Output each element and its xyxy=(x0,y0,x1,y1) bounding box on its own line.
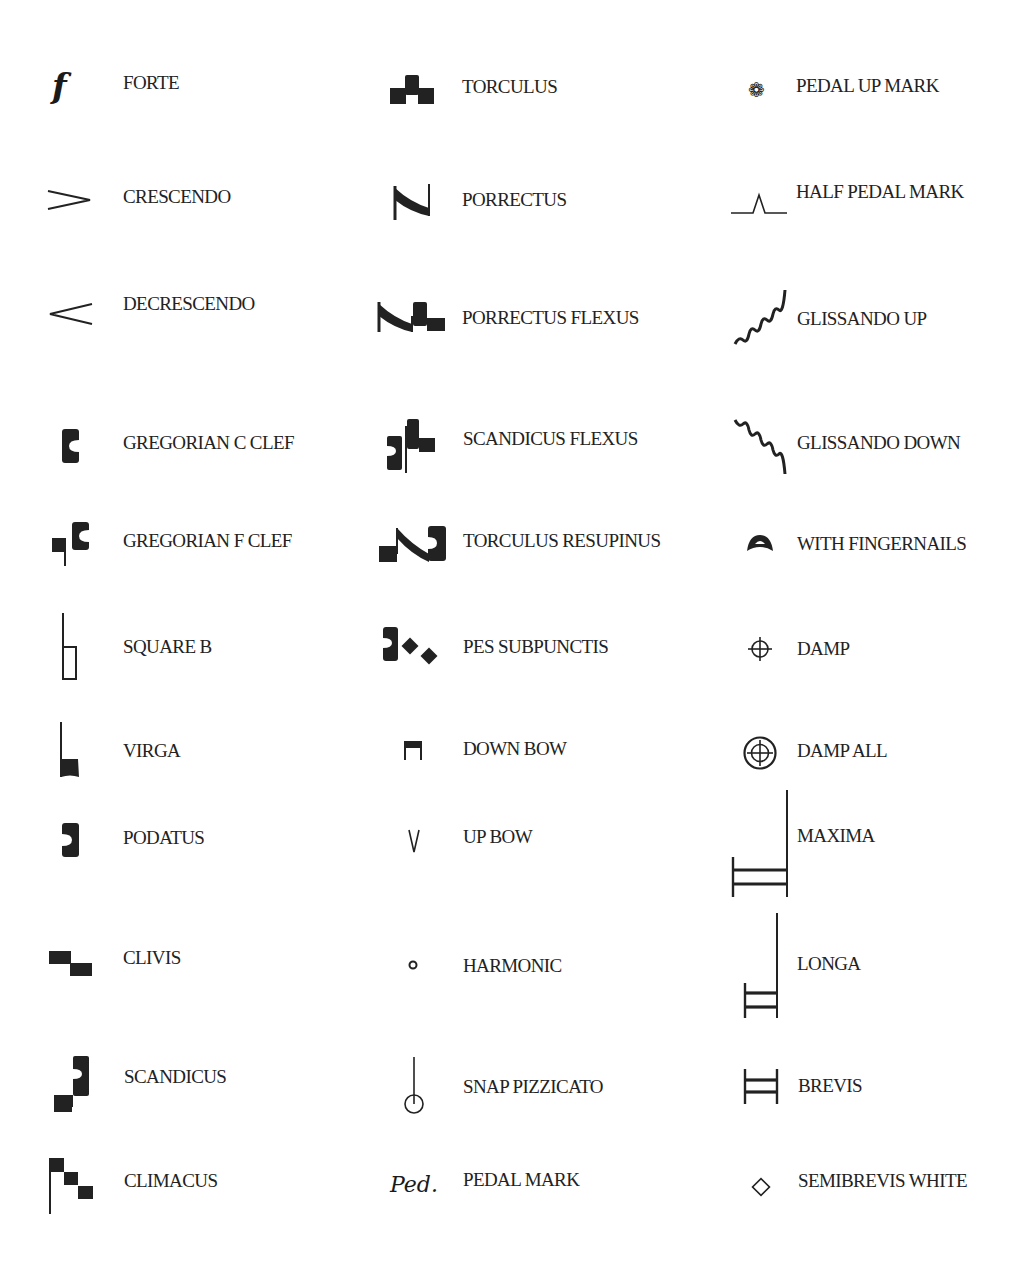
pedal-mark-icon: Ped. xyxy=(390,1172,438,1197)
damp-all-icon xyxy=(742,735,778,771)
glissando-down-icon xyxy=(733,418,787,476)
harmonic-icon xyxy=(407,959,419,971)
crescendo-icon xyxy=(46,189,92,211)
symbol-label: SQUARE B xyxy=(123,636,212,658)
symbol-label: CLIMACUS xyxy=(124,1170,217,1192)
virga-icon xyxy=(58,721,82,779)
symbol-label: UP BOW xyxy=(463,826,532,848)
glissando-up-icon xyxy=(733,288,787,348)
symbol-label: VIRGA xyxy=(123,740,180,762)
clivis-icon xyxy=(48,950,94,978)
semibrevis-white-icon xyxy=(750,1176,772,1198)
symbol-label: PORRECTUS FLEXUS xyxy=(462,307,639,329)
symbol-label: PEDAL UP MARK xyxy=(796,75,939,97)
pes-subpunctis-icon xyxy=(382,626,444,670)
symbol-label: BREVIS xyxy=(798,1075,862,1097)
symbol-label: HALF PEDAL MARK xyxy=(796,181,964,203)
symbol-label: GREGORIAN F CLEF xyxy=(123,530,292,552)
longa-icon xyxy=(742,912,782,1022)
half-pedal-mark-icon xyxy=(730,190,788,216)
gregorian-f-clef-icon xyxy=(50,520,92,568)
gregorian-c-clef-icon xyxy=(61,428,81,464)
symbol-label: SCANDICUS FLEXUS xyxy=(463,428,638,450)
up-bow-icon xyxy=(407,828,421,854)
symbol-label: TORCULUS RESUPINUS xyxy=(463,530,660,552)
symbol-label: HARMONIC xyxy=(463,955,562,977)
snap-pizzicato-icon xyxy=(403,1056,425,1116)
porrectus-icon xyxy=(392,182,432,222)
symbol-label: PEDAL MARK xyxy=(463,1169,579,1191)
scandicus-icon xyxy=(53,1055,93,1115)
climacus-icon xyxy=(47,1156,97,1216)
symbol-label: SNAP PIZZICATO xyxy=(463,1076,603,1098)
down-bow-icon xyxy=(403,740,425,762)
symbol-label: DECRESCENDO xyxy=(123,293,255,315)
with-fingernails-icon xyxy=(745,533,775,553)
maxima-icon xyxy=(730,789,792,899)
pedal-up-mark-icon: ❁ xyxy=(748,80,765,100)
symbol-label: SEMIBREVIS WHITE xyxy=(798,1170,967,1192)
symbol-label: DAMP xyxy=(797,638,850,660)
symbol-label: PES SUBPUNCTIS xyxy=(463,636,608,658)
symbol-label: FORTE xyxy=(123,72,179,94)
symbol-label: GLISSANDO DOWN xyxy=(797,432,960,454)
symbol-label: PODATUS xyxy=(123,827,204,849)
symbol-label: TORCULUS xyxy=(462,76,557,98)
symbol-label: MAXIMA xyxy=(797,825,875,847)
scandicus-flexus-icon xyxy=(386,418,440,476)
symbol-label: LONGA xyxy=(797,953,861,975)
symbol-label: PORRECTUS xyxy=(462,189,566,211)
symbol-label: DAMP ALL xyxy=(797,740,887,762)
brevis-icon xyxy=(742,1068,782,1106)
symbol-label: GLISSANDO UP xyxy=(797,308,927,330)
forte-icon: f xyxy=(52,66,67,106)
porrectus-flexus-icon xyxy=(376,298,448,334)
torculus-icon xyxy=(388,74,436,106)
decrescendo-icon xyxy=(48,302,94,326)
symbol-label: CLIVIS xyxy=(123,947,181,969)
symbol-label: GREGORIAN C CLEF xyxy=(123,432,294,454)
damp-icon xyxy=(747,636,773,662)
podatus-icon xyxy=(61,822,81,858)
symbol-label: SCANDICUS xyxy=(124,1066,226,1088)
square-b-icon xyxy=(60,612,80,682)
symbol-label: DOWN BOW xyxy=(463,738,566,760)
symbol-label: WITH FINGERNAILS xyxy=(797,533,966,555)
symbol-label: CRESCENDO xyxy=(123,186,231,208)
torculus-resupinus-icon xyxy=(377,524,449,566)
